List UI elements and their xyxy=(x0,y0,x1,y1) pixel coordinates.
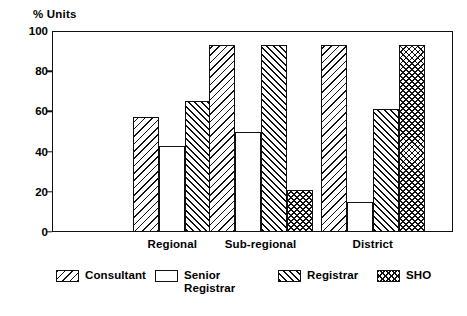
y-tick-label: 40 xyxy=(6,146,48,158)
legend-label: SHO xyxy=(406,269,431,282)
legend-swatch-sho xyxy=(377,270,400,282)
bar-regional-senior-registrar xyxy=(159,146,185,232)
legend-swatch-consultant xyxy=(56,270,79,282)
bar-sub-regional-registrar xyxy=(261,45,287,232)
bar-chart: % Units 020406080100 RegionalSub-regiona… xyxy=(0,0,467,316)
legend-label: Senior Registrar xyxy=(184,269,235,295)
legend-label: Consultant xyxy=(85,269,146,282)
y-tick-label: 20 xyxy=(6,186,48,198)
bar-sub-regional-consultant xyxy=(209,45,235,232)
bars-layer xyxy=(52,31,453,232)
legend-label: Registrar xyxy=(307,269,358,282)
y-tick-label: 60 xyxy=(6,105,48,117)
bar-district-senior-registrar xyxy=(347,202,373,232)
legend-item-sho[interactable]: SHO xyxy=(377,269,431,282)
legend-item-consultant[interactable]: Consultant xyxy=(56,269,146,282)
y-tick-label: 0 xyxy=(6,226,48,238)
bar-district-consultant xyxy=(321,45,347,232)
x-category-label-district: District xyxy=(353,238,393,250)
bar-regional-registrar xyxy=(185,101,211,232)
bar-sub-regional-sho xyxy=(287,190,313,232)
legend-item-senior-registrar[interactable]: Senior Registrar xyxy=(155,269,235,295)
legend-swatch-senior-registrar xyxy=(155,270,178,282)
chart-legend: ConsultantSenior RegistrarRegistrarSHO xyxy=(0,269,467,315)
bar-district-registrar xyxy=(373,109,399,232)
bar-regional-consultant xyxy=(133,117,159,232)
y-tick-label: 100 xyxy=(6,25,48,37)
bar-sub-regional-senior-registrar xyxy=(235,132,261,233)
legend-item-registrar[interactable]: Registrar xyxy=(278,269,358,282)
bar-district-sho xyxy=(399,45,425,232)
legend-swatch-registrar xyxy=(278,270,301,282)
x-category-label-regional: Regional xyxy=(148,238,197,250)
y-tick-label: 80 xyxy=(6,65,48,77)
x-category-label-sub-regional: Sub-regional xyxy=(225,238,296,250)
